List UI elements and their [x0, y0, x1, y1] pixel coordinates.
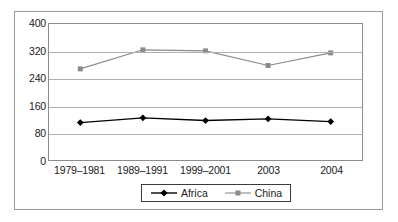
y-tick-label: 320	[16, 46, 46, 56]
square-marker-icon	[224, 188, 252, 198]
y-tick-label: 400	[16, 18, 46, 28]
chart-figure: 080160240320400 1979–19811989–19911999–2…	[14, 11, 383, 210]
legend-label: China	[255, 188, 282, 199]
legend-item-africa[interactable]: Africa	[150, 188, 208, 199]
gridline	[49, 134, 362, 135]
data-point-africa-1	[140, 114, 147, 121]
chart-legend: AfricaChina	[141, 184, 291, 202]
data-point-africa-4	[327, 118, 334, 125]
legend-item-china[interactable]: China	[224, 188, 282, 199]
data-point-china-0	[78, 66, 83, 71]
data-point-africa-3	[265, 116, 272, 123]
y-tick-label: 240	[16, 73, 46, 83]
gridline	[49, 79, 362, 80]
plot-area	[48, 23, 363, 161]
y-axis: 080160240320400	[15, 23, 46, 161]
data-point-africa-2	[202, 117, 209, 124]
gridline	[49, 107, 362, 108]
gridline	[49, 52, 362, 53]
y-tick-label: 80	[16, 128, 46, 138]
diamond-marker-icon	[150, 188, 178, 198]
legend-label: Africa	[181, 188, 208, 199]
data-point-africa-0	[77, 119, 84, 126]
x-axis: 1979–19811989–19911999–200120032004	[48, 164, 363, 178]
data-point-china-3	[266, 63, 271, 68]
x-tick-label: 2004	[292, 164, 372, 176]
series-layer	[49, 24, 362, 160]
y-tick-label: 160	[16, 101, 46, 111]
